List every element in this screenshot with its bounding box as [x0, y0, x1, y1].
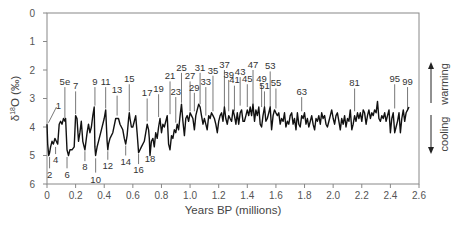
plot-frame: [47, 13, 419, 184]
mis-label: 16: [133, 164, 144, 175]
x-tick-label: 0: [44, 190, 50, 201]
x-tick-label: 1.6: [269, 190, 283, 201]
y-axis-title-text: δ18O (‰): [9, 76, 21, 122]
mis-marker-6: 6: [64, 157, 69, 180]
x-tick-label: 0.6: [126, 190, 140, 201]
y-tick-label: 4: [29, 122, 35, 133]
x-tick-label: 1.0: [183, 190, 197, 201]
mis-marker-2: 2: [47, 157, 52, 180]
mis-label: 7: [73, 80, 78, 91]
y-axis-ticks: 0123456: [29, 8, 47, 190]
x-tick-label: 0.4: [97, 190, 111, 201]
cooling-label: cooling: [438, 117, 450, 152]
y-tick-label: 0: [29, 8, 35, 19]
mis-marker-10: 10: [90, 158, 101, 185]
mis-label: 5e: [60, 76, 71, 87]
mis-label: 95: [389, 73, 400, 84]
mis-label: 9: [92, 76, 97, 87]
mis-marker-99: 99: [402, 76, 413, 110]
mis-label: 53: [265, 60, 276, 71]
x-tick-label: 2.4: [383, 190, 397, 201]
x-tick-label: 0.2: [69, 190, 83, 201]
mis-marker-13: 13: [112, 84, 123, 115]
mis-label: 6: [64, 169, 69, 180]
warming-cooling-annotation: warming cooling: [428, 62, 450, 154]
mis-label: 35: [208, 65, 219, 76]
y-axis-title: δ18O (‰): [9, 76, 21, 122]
y-tick-label: 2: [29, 65, 35, 76]
mis-marker-19: 19: [153, 83, 164, 117]
y-tick-label: 5: [29, 150, 35, 161]
mis-marker-12: 12: [103, 151, 114, 171]
mis-marker-63: 63: [296, 86, 307, 111]
mis-marker-4: 4: [53, 147, 58, 165]
y-tick-label: 6: [29, 179, 35, 190]
x-tick-label: 1.2: [212, 190, 226, 201]
mis-marker-41: 41: [229, 74, 240, 111]
plot-border: [47, 13, 419, 184]
mis-label: 12: [103, 160, 114, 171]
mis-marker-37: 37: [219, 59, 230, 107]
x-tick-label: 1.4: [240, 190, 254, 201]
mis-label: 63: [296, 86, 307, 97]
mis-marker-1: 1: [48, 100, 61, 123]
mis-label: 99: [402, 76, 413, 87]
mis-marker-43: 43: [235, 66, 246, 106]
mis-marker-9: 9: [92, 76, 97, 106]
mis-label: 45: [242, 73, 253, 84]
mis-marker-17: 17: [142, 87, 153, 121]
y-tick-label: 1: [29, 36, 35, 47]
mis-marker-81: 81: [349, 77, 360, 111]
mis-label: 4: [53, 154, 58, 165]
mis-marker-14: 14: [120, 146, 131, 167]
mis-marker-16: 16: [133, 154, 144, 175]
mis-marker-35: 35: [208, 65, 219, 112]
x-tick-label: 1.8: [298, 190, 312, 201]
x-tick-label: 2.2: [355, 190, 369, 201]
d18o-chart: δ18O (‰) 00.20.40.60.81.01.21.41.61.82.0…: [0, 0, 456, 228]
mis-label: 10: [90, 174, 101, 185]
mis-marker-15: 15: [124, 73, 135, 111]
mis-marker-55: 55: [271, 77, 282, 108]
mis-label: 23: [170, 86, 181, 97]
x-axis-ticks: 00.20.40.60.81.01.21.41.61.82.02.22.42.6: [44, 184, 426, 201]
mis-marker-33: 33: [201, 76, 212, 116]
mis-label: 29: [189, 82, 200, 93]
mis-label: 8: [82, 161, 87, 172]
mis-label: 15: [124, 73, 135, 84]
mis-label: 55: [271, 77, 282, 88]
x-tick-label: 2.0: [326, 190, 340, 201]
down-arrowhead-icon: [428, 147, 434, 154]
mis-label: 1: [56, 100, 61, 111]
mis-marker-8: 8: [82, 151, 87, 172]
mis-label: 17: [142, 87, 153, 98]
mis-label: 19: [153, 83, 164, 94]
mis-marker-95: 95: [389, 73, 400, 108]
x-tick-label: 0.8: [155, 190, 169, 201]
warming-label: warming: [438, 63, 450, 106]
mis-label: 13: [112, 84, 123, 95]
mis-label: 81: [349, 77, 360, 88]
mis-marker-51: 51: [259, 80, 270, 110]
mis-label: 51: [259, 80, 270, 91]
mis-label: 2: [47, 169, 52, 180]
x-tick-label: 2.6: [412, 190, 426, 201]
mis-marker-45: 45: [242, 73, 253, 107]
y-tick-label: 3: [29, 93, 35, 104]
mis-label: 14: [120, 156, 131, 167]
mis-label: 11: [101, 76, 111, 87]
mis-marker-11: 11: [101, 76, 111, 109]
mis-label: 33: [201, 76, 212, 87]
mis-label: 31: [195, 62, 206, 73]
x-axis-title: Years BP (millions): [185, 204, 282, 216]
up-arrowhead-icon: [428, 62, 434, 69]
mis-marker-5e: 5e: [60, 76, 71, 119]
mis-label: 21: [165, 70, 176, 81]
mis-label: 47: [248, 59, 259, 70]
mis-marker-7: 7: [73, 80, 78, 114]
mis-label: 27: [185, 70, 196, 81]
mis-stage-markers: 1245e67891011121314151617181921232527293…: [47, 59, 413, 185]
